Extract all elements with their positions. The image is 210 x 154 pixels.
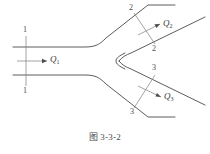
section-label-2-top: 2: [129, 4, 133, 12]
caption-prefix: 图: [89, 132, 100, 142]
flow-arrowhead-1: [42, 59, 47, 63]
figure-caption: 图3-3-2: [0, 130, 210, 143]
flow-subscript-q2: 2: [170, 23, 173, 29]
flow-label-q2: Q2: [163, 19, 173, 28]
lower-inner-wall: [119, 61, 205, 105]
flow-label-q3: Q3: [164, 92, 174, 101]
section-line-3: [134, 75, 155, 108]
section-label-3-bottom: 3: [130, 108, 134, 116]
flow-subscript-q1: 1: [57, 59, 60, 65]
caption-number: 3-3-2: [100, 132, 121, 142]
flow-symbol-q3: Q: [164, 91, 171, 101]
flow-arrow-1: [17, 59, 47, 63]
flow-arrow-2: [138, 24, 160, 35]
upper-inner-wall: [119, 17, 205, 61]
figure-container: 1 1 2 2 3 3 Q1 Q2 Q3 图3-3-2: [0, 0, 210, 154]
wedge-nose: [116, 53, 125, 69]
flow-arrow-3: [138, 86, 161, 97]
flow-symbol-q2: Q: [163, 18, 170, 28]
flow-arrowhead-3: [156, 93, 162, 97]
flow-symbol-q1: Q: [50, 54, 57, 64]
section-label-3-top: 3: [152, 64, 156, 72]
section-label-1-top: 1: [23, 26, 27, 34]
flow-subscript-q3: 3: [171, 96, 174, 102]
flow-label-q1: Q1: [50, 55, 60, 64]
section-label-2-bottom: 2: [152, 45, 156, 53]
upper-outer-wall: [13, 5, 175, 47]
section-label-1-bottom: 1: [23, 87, 27, 95]
